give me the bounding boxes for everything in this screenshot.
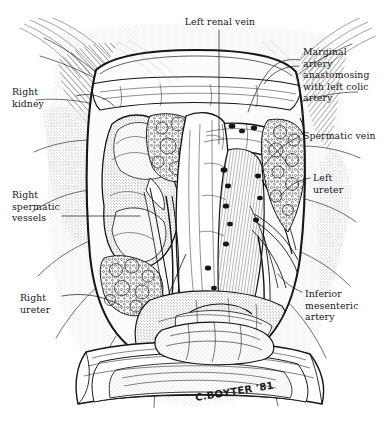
label-right-ureter: Right ureter (20, 292, 100, 315)
label-right-kidney: Right kidney (12, 86, 92, 109)
label-left-ureter: Left ureter (313, 172, 389, 195)
illustration-page: Left renal vein Marginal artery anastomo… (0, 0, 389, 423)
label-left-renal-vein: Left renal vein (150, 16, 290, 28)
retracted-tissue-roll (155, 322, 274, 365)
label-marginal-artery: Marginal artery anastomosing with left c… (303, 46, 389, 104)
label-spermatic-vein: Spermatic vein (303, 130, 389, 142)
label-right-spermatic-vessels: Right spermatic vessels (12, 189, 92, 224)
label-inferior-mesenteric-artery: Inferior mesenteric artery (305, 288, 389, 323)
